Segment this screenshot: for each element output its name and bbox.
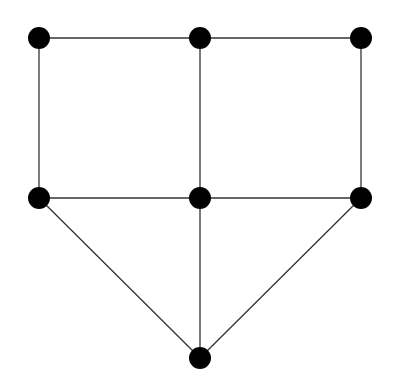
graph-diagram — [0, 0, 394, 391]
node-n2 — [189, 27, 211, 49]
edge-n4-n7 — [39, 198, 200, 358]
edge-n6-n7 — [200, 198, 361, 358]
node-n4 — [28, 187, 50, 209]
node-n5 — [189, 187, 211, 209]
node-n7 — [189, 347, 211, 369]
node-n3 — [350, 27, 372, 49]
node-n6 — [350, 187, 372, 209]
node-n1 — [28, 27, 50, 49]
